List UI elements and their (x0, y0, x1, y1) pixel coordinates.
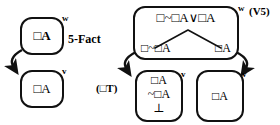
world-box-v-right: □A (196, 70, 244, 122)
rule-label-box-t: (□T) (96, 83, 117, 94)
rule-label-v5: (V5) (249, 6, 270, 17)
world-label-w-right: w (238, 4, 245, 13)
world-box-w-left: □A (20, 17, 64, 55)
world-label-v-right: v (242, 70, 247, 79)
arrow-w-to-v-right (236, 52, 247, 70)
formula-box-a: □A (33, 82, 50, 96)
rule-label-5-fact: 5-Fact (68, 33, 101, 45)
world-box-w-right: □~□A∨□A □~□A □A (133, 6, 239, 60)
formula-box-a: □A (212, 90, 228, 103)
world-label-v-left: v (62, 67, 67, 76)
formula-not-box-a: ~□A (148, 88, 170, 101)
modal-logic-diagram: □A w □A v 5-Fact □~□A∨□A □~□A □A w (V5) … (0, 0, 280, 125)
formula-disjunction: □~□A∨□A (157, 11, 216, 25)
formula-box-a: □A (33, 29, 50, 43)
world-label-w-left: w (62, 14, 69, 23)
branch-connector-icon (153, 28, 223, 50)
world-label-v-middle: v (181, 70, 186, 79)
formula-falsum: ⊥ (153, 102, 164, 115)
world-box-v-left: □A (20, 70, 64, 108)
formula-box-a: □A (151, 74, 167, 87)
world-box-v-middle: □A ~□A ⊥ (135, 70, 183, 122)
arrow-w-to-v-left-group (12, 50, 22, 68)
